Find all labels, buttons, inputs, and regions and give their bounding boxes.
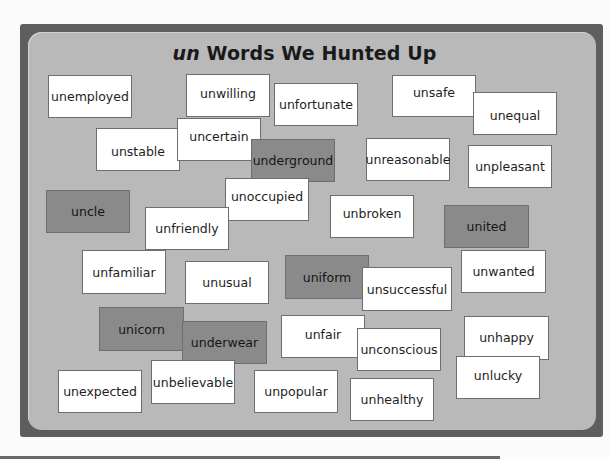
word-card-label: unsafe [413,85,455,100]
word-card-label: unexpected [63,384,137,399]
word-card-label: unoccupied [231,189,303,204]
word-card-unequal: unequal [473,92,557,135]
word-card-label: unequal [490,108,541,123]
word-card-unconscious: unconscious [357,328,441,371]
title-prefix: un [173,42,200,64]
word-card-unstable: unstable [96,128,180,171]
word-card-label: unpopular [264,384,328,399]
word-card-unwanted: unwanted [461,250,546,293]
word-card-label: unconscious [360,342,437,357]
word-card-unexpected: unexpected [58,370,142,413]
word-card-label: uncle [71,204,105,219]
word-card-underwear: underwear [182,321,267,364]
word-card-label: unstable [111,144,165,159]
word-card-unpopular: unpopular [254,370,338,413]
word-card-united: united [444,205,529,248]
word-card-label: unwilling [200,86,256,101]
word-card-label: unfamiliar [92,265,155,280]
word-card-label: uncertain [189,129,249,144]
word-card-label: unfair [305,327,342,342]
poster-title: un Words We Hunted Up [0,42,609,64]
word-card-unpleasant: unpleasant [468,145,552,188]
word-card-label: unfortunate [279,97,353,112]
word-card-label: unemployed [51,89,129,104]
word-card-unemployed: unemployed [48,75,132,118]
word-card-label: unhappy [479,330,534,345]
word-card-unsafe: unsafe [392,75,476,117]
word-card-label: unlucky [474,368,522,383]
word-card-uniform: uniform [285,255,369,299]
word-card-label: unusual [202,275,251,290]
word-card-underground: underground [251,139,335,182]
word-card-label: underwear [191,335,258,350]
word-card-unoccupied: unoccupied [225,178,309,221]
word-card-label: unbelievable [153,375,233,390]
word-card-unbroken: unbroken [330,195,414,238]
word-card-label: unreasonable [366,152,451,167]
word-card-uncle: uncle [46,190,130,233]
word-card-unicorn: unicorn [99,307,184,351]
word-card-label: unicorn [118,322,165,337]
word-card-unhappy: unhappy [464,316,549,360]
word-card-label: unbroken [343,206,402,221]
word-card-unhealthy: unhealthy [350,378,434,421]
word-card-label: unpleasant [475,159,545,174]
word-card-unlucky: unlucky [456,356,540,399]
word-card-unwilling: unwilling [186,74,270,117]
title-text: Words We Hunted Up [200,42,437,64]
word-card-label: unwanted [472,264,534,279]
word-card-label: unsuccessful [367,282,448,297]
word-card-unfriendly: unfriendly [145,207,229,250]
word-card-label: unhealthy [361,392,424,407]
word-card-unfamiliar: unfamiliar [82,250,166,294]
word-card-label: uniform [303,270,351,285]
bottom-divider [0,456,500,459]
word-card-label: united [467,219,507,234]
word-card-unreasonable: unreasonable [366,138,450,181]
word-card-unfortunate: unfortunate [274,83,358,126]
word-card-label: unfriendly [155,221,218,236]
word-card-unsuccessful: unsuccessful [362,267,452,311]
word-card-unusual: unusual [185,261,269,304]
word-card-unfair: unfair [281,315,365,358]
word-card-unbelievable: unbelievable [151,360,235,404]
word-card-uncertain: uncertain [177,118,261,161]
word-card-label: underground [253,153,334,168]
